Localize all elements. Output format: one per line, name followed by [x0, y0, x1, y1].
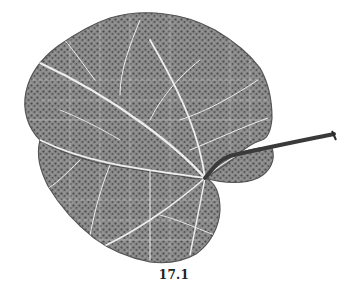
leaf-illustration: [0, 0, 348, 291]
leaf-blade: [25, 13, 273, 263]
leaf-figure: 17.1: [0, 0, 348, 291]
figure-caption: 17.1: [0, 268, 348, 282]
